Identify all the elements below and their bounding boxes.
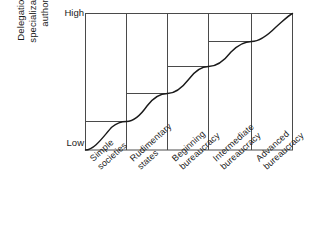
plot-frame: [86, 14, 293, 151]
data-curve: [86, 14, 293, 151]
plot-area: [0, 0, 310, 228]
chart-figure: Delegation and specialization of authori…: [0, 0, 310, 228]
